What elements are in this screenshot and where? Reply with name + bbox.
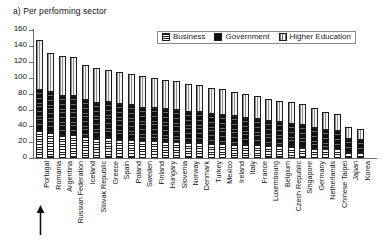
bar-segment-business	[231, 144, 238, 158]
bar-segment-highered	[70, 57, 77, 95]
x-axis-label: Denmark	[202, 161, 211, 190]
bar[interactable]	[242, 94, 249, 158]
bar[interactable]	[70, 57, 77, 158]
x-axis-label: Germany	[317, 161, 326, 191]
bar-segment-business	[311, 148, 318, 158]
y-axis-tick-label: 40	[18, 120, 27, 129]
bar-segment-government	[162, 109, 169, 141]
bar-segment-highered	[36, 40, 43, 90]
bar[interactable]	[128, 74, 135, 158]
bar-segment-business	[93, 138, 100, 158]
bar[interactable]	[105, 70, 112, 158]
chart-legend: BusinessGovernmentHigher Education	[157, 31, 356, 44]
legend-swatch-vertical-hatch	[279, 33, 287, 41]
y-axis-tick-mark	[29, 46, 33, 47]
plot-area	[35, 30, 376, 158]
bar-segment-highered	[208, 88, 215, 114]
bar-segment-government	[196, 112, 203, 142]
bar-segment-highered	[139, 76, 146, 107]
bar[interactable]	[47, 53, 54, 158]
bar[interactable]	[357, 129, 364, 158]
bar[interactable]	[162, 80, 169, 158]
x-axis-line	[33, 158, 377, 159]
bar-segment-business	[162, 141, 169, 158]
bar-segment-highered	[59, 56, 66, 96]
bar[interactable]	[265, 99, 272, 158]
y-axis-tick-label: 80	[18, 88, 27, 97]
bar-segment-business	[334, 148, 341, 158]
bar[interactable]	[231, 92, 238, 158]
bar[interactable]	[36, 40, 43, 158]
bar[interactable]	[208, 88, 215, 158]
bar[interactable]	[219, 89, 226, 158]
x-axis-label: Spain	[122, 161, 131, 179]
bar-segment-government	[105, 102, 112, 137]
bar[interactable]	[299, 104, 306, 158]
y-axis-tick-label: 0	[23, 152, 27, 161]
x-axis-label: Luxembourg	[271, 161, 280, 201]
bar[interactable]	[185, 84, 192, 158]
bar-segment-business	[357, 152, 364, 158]
bar-segment-highered	[242, 94, 249, 118]
bar-segment-business	[59, 135, 66, 158]
bar-segment-government	[345, 139, 352, 152]
y-axis-tick-label: 140	[14, 40, 27, 49]
bar-segment-business	[47, 132, 54, 158]
y-axis-tick-label: 20	[18, 136, 27, 145]
y-axis-tick-label: 100	[14, 72, 27, 81]
bar-segment-government	[311, 128, 318, 148]
up-arrow-icon	[36, 205, 45, 235]
x-axis-label: Slovak Republic	[99, 161, 108, 213]
bar-segment-highered	[162, 80, 169, 110]
bar-segment-highered	[288, 102, 295, 124]
legend-item[interactable]: Higher Education	[279, 33, 351, 41]
bar-segment-business	[116, 139, 123, 158]
bar[interactable]	[254, 96, 261, 158]
bar[interactable]	[116, 72, 123, 158]
x-axis-label: Mexico	[225, 161, 234, 184]
bar-segment-highered	[128, 74, 135, 105]
x-axis-label: Hungary	[168, 161, 177, 188]
bar-segment-business	[36, 130, 43, 158]
bar[interactable]	[59, 56, 66, 158]
bar-segment-highered	[254, 96, 261, 119]
bar-segment-business	[288, 146, 295, 158]
bar-segment-highered	[299, 104, 306, 125]
legend-label: Business	[173, 33, 205, 41]
bar-segment-government	[265, 121, 272, 145]
bar[interactable]	[139, 76, 146, 158]
bar[interactable]	[311, 108, 318, 158]
legend-swatch-solid-black	[214, 33, 222, 41]
bar-segment-highered	[82, 65, 89, 99]
bar[interactable]	[93, 68, 100, 158]
bar[interactable]	[82, 65, 89, 158]
bar[interactable]	[345, 127, 352, 158]
x-axis-label: Singapore	[305, 161, 314, 194]
bar-segment-government	[334, 131, 341, 149]
bar[interactable]	[288, 102, 295, 158]
bar-segment-business	[299, 147, 306, 158]
bar[interactable]	[173, 81, 180, 158]
bar[interactable]	[196, 85, 203, 158]
y-axis-tick-mark	[29, 158, 33, 159]
bar-segment-highered	[105, 70, 112, 102]
legend-item[interactable]: Government	[214, 33, 269, 41]
bar-segment-business	[151, 140, 158, 158]
bar-segment-government	[254, 119, 261, 145]
bar-segment-government	[276, 122, 283, 145]
chart-container: a) Per performing sector 020406080100120…	[0, 0, 382, 247]
bar-segment-highered	[173, 81, 180, 110]
bar[interactable]	[334, 114, 341, 158]
bar[interactable]	[276, 101, 283, 158]
bar[interactable]	[322, 112, 329, 158]
bar-segment-business	[196, 142, 203, 158]
y-axis-tick-mark	[29, 142, 33, 143]
bar[interactable]	[151, 78, 158, 158]
bar-segment-highered	[185, 84, 192, 112]
x-axis-label: Turkey	[214, 161, 223, 183]
y-axis-tick-mark	[29, 78, 33, 79]
bar-segment-business	[276, 145, 283, 158]
legend-item[interactable]: Business	[162, 33, 205, 41]
x-axis-label: Romania	[54, 161, 63, 190]
x-axis-label: Iceland	[88, 161, 97, 184]
